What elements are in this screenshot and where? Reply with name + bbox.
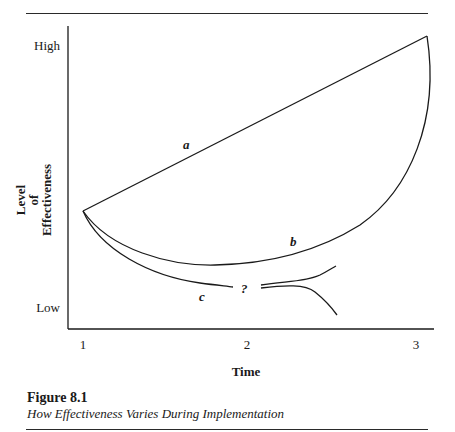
y-axis-title: Level of Effectiveness [4,140,62,260]
curve-a [83,36,427,211]
x-tick-1: 1 [80,337,87,353]
x-tick-3: 3 [413,337,420,353]
curve-label-a: a [183,137,190,153]
bottom-rule [26,429,428,430]
x-tick-2: 2 [244,337,251,353]
uncertain-marker: ? [241,281,248,297]
figure-number: Figure 8.1 [27,390,87,406]
curve-b [83,36,430,265]
y-title-line-3: Effectiveness [40,164,53,236]
y-tick-low: Low [20,300,60,316]
curve-label-c: c [199,289,205,305]
y-tick-high: High [20,38,60,54]
curve-c-branch-up [261,266,336,285]
chart-plot [0,0,455,432]
curve-label-b: b [290,234,297,250]
curve-c [83,211,233,287]
curve-c-branch-down [261,286,337,315]
figure-caption: How Effectiveness Varies During Implemen… [27,406,284,422]
x-axis-title: Time [232,364,261,380]
